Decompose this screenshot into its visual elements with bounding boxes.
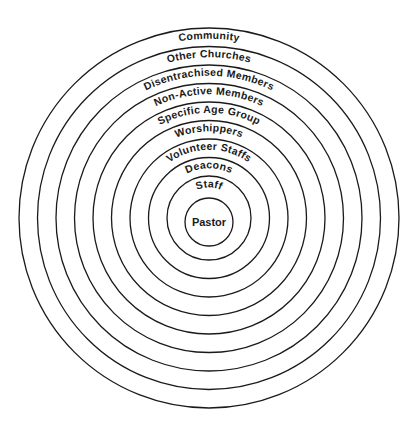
label-pastor: Pastor xyxy=(192,216,227,228)
label-community: Community xyxy=(177,29,240,44)
concentric-circles-diagram: Community Other Churches Disentrachised … xyxy=(0,0,414,431)
label-staff: Staff xyxy=(194,177,225,191)
